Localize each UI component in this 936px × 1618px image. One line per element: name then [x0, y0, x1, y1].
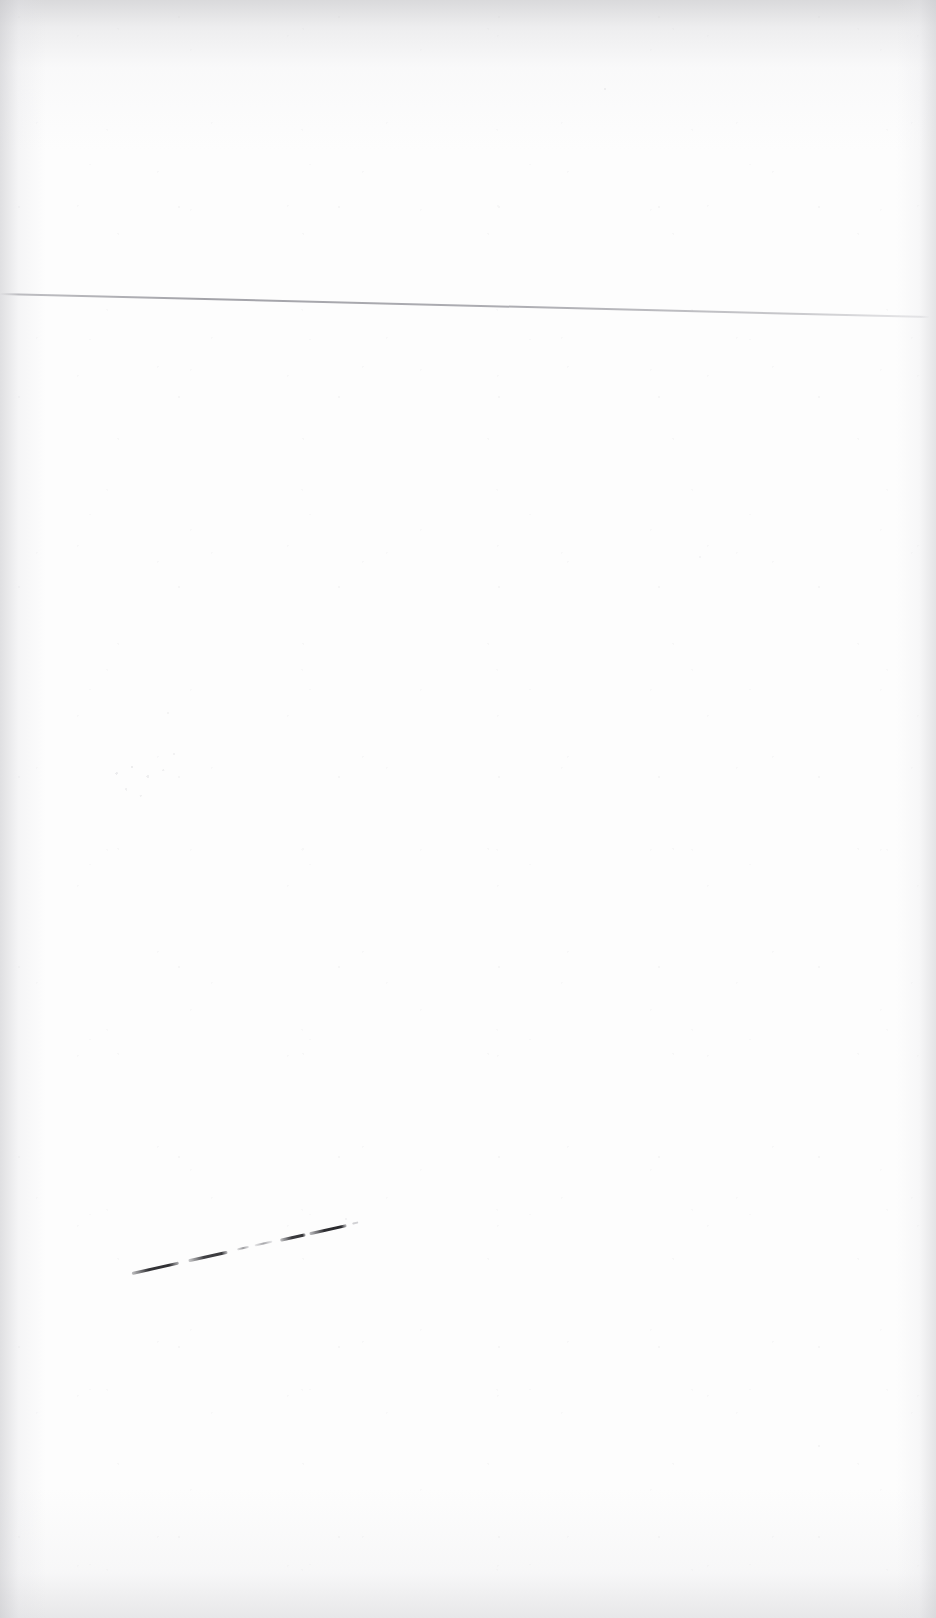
scanned-page — [0, 0, 936, 1618]
paper-background — [0, 0, 936, 1618]
